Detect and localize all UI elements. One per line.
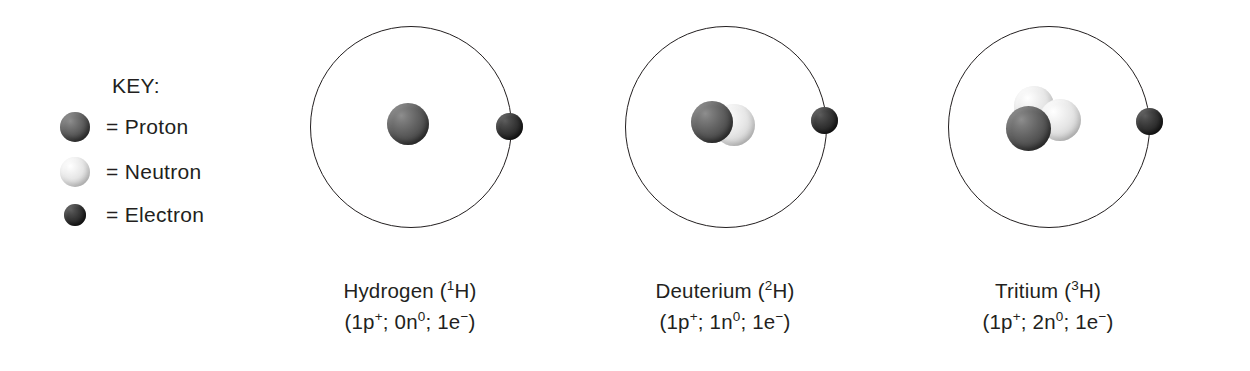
proton-sphere-icon: [1006, 106, 1051, 151]
atom-tritium: Tritium (3H) (1p+; 2n0; 1e−): [908, 0, 1188, 371]
atom-name-hydrogen: Hydrogen (1H): [343, 279, 476, 302]
atom-name-tritium: Tritium (3H): [995, 279, 1101, 302]
proton-sphere-icon: [60, 112, 90, 142]
nucleus-deuterium: [691, 100, 761, 152]
electron-sphere-icon: [811, 107, 838, 134]
neutron-sphere-icon: [60, 157, 90, 187]
proton-sphere-icon: [691, 101, 733, 143]
key-item-electron-label: = Electron: [106, 203, 204, 227]
caption-hydrogen: Hydrogen (1H) (1p+; 0n0; 1e−): [270, 275, 550, 337]
electron-sphere-icon: [64, 204, 86, 226]
atom-deuterium: Deuterium (2H) (1p+; 1n0; 1e−): [585, 0, 865, 371]
caption-deuterium: Deuterium (2H) (1p+; 1n0; 1e−): [585, 275, 865, 337]
atom-name-deuterium: Deuterium (2H): [655, 279, 794, 302]
caption-tritium: Tritium (3H) (1p+; 2n0; 1e−): [908, 275, 1188, 337]
key-item-neutron-label: = Neutron: [106, 160, 202, 184]
composition-deuterium: (1p+; 1n0; 1e−): [585, 306, 865, 337]
atom-hydrogen: Hydrogen (1H) (1p+; 0n0; 1e−): [270, 0, 550, 371]
mass-number-hydrogen: 1: [447, 278, 455, 293]
composition-hydrogen: (1p+; 0n0; 1e−): [270, 306, 550, 337]
electron-sphere-icon: [496, 113, 523, 140]
key-item-proton-label: = Proton: [106, 115, 188, 139]
key-title: KEY:: [112, 74, 160, 98]
nucleus-tritium: [1006, 86, 1086, 162]
proton-sphere-icon: [387, 103, 429, 145]
nucleus-hydrogen: [387, 103, 433, 149]
composition-tritium: (1p+; 2n0; 1e−): [908, 306, 1188, 337]
mass-number-tritium: 3: [1071, 278, 1079, 293]
electron-sphere-icon: [1136, 108, 1163, 135]
hydrogen-isotopes-figure: KEY: = Proton = Neutron = Electron: [0, 0, 1250, 371]
